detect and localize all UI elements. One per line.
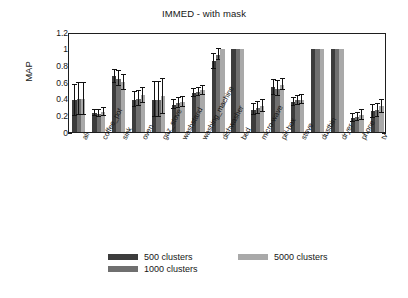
bar[interactable] [300,34,304,132]
error-bar [118,71,119,86]
error-bar [142,88,143,103]
error-bar [381,100,382,113]
bar-rect [121,82,125,132]
error-bar-cap-top [379,99,384,100]
bar[interactable] [379,34,383,132]
error-bar [123,75,124,90]
y-axis-tick-label: 0.4 [56,94,68,104]
bar[interactable] [161,34,165,132]
bar-group [311,34,324,132]
error-bar-cap-top [140,87,145,88]
bar-group [152,34,165,132]
bar[interactable] [180,34,184,132]
bar[interactable] [121,34,125,132]
error-bar-cap-top [359,109,364,110]
error-bar-cap-top [200,85,205,86]
bar[interactable] [220,34,224,132]
error-bar-cap-top [260,99,265,100]
error-bar-cap-bottom [200,94,205,95]
error-bar-cap-bottom [81,114,86,115]
bar-rect [320,49,324,132]
bar[interactable] [260,34,264,132]
error-bar-cap-bottom [121,89,126,90]
error-bar-cap-top [299,94,304,95]
legend-entry[interactable]: 1000 clusters [108,264,198,274]
chart-title: IMMED - with mask [0,8,408,19]
error-bar [162,79,163,114]
bar-group [251,34,264,132]
legend-swatch [108,266,138,272]
y-axis-tick-label: 0.2 [56,111,68,121]
legend-entry[interactable]: 5000 clusters [238,252,328,262]
error-bar-cap-bottom [101,115,106,116]
error-bar [138,91,139,106]
error-bar-cap-bottom [140,102,145,103]
error-bar [154,82,155,117]
bar[interactable] [359,34,363,132]
bar-group [371,34,384,132]
bar[interactable] [141,34,145,132]
x-axis-tick-label: tv [379,132,390,141]
bar[interactable] [81,34,85,132]
error-bar-cap-bottom [160,113,165,114]
bar[interactable] [339,34,343,132]
error-bar [277,81,278,96]
y-axis-tick-label: 0.6 [56,78,68,88]
y-axis-label: MAP [23,42,34,102]
bar-group [72,34,85,132]
error-bar-cap-top [160,78,165,79]
legend-swatch [108,254,138,260]
error-bar [213,54,214,69]
legend-entry[interactable]: 500 clusters [108,252,193,262]
error-bar-cap-bottom [359,119,364,120]
error-bar [83,83,84,115]
error-bar-cap-bottom [280,89,285,90]
y-axis-tick-label: 0.8 [56,61,68,71]
error-bar [78,83,79,115]
chart-figure: IMMED - with mask MAP 00.20.40.60.811.2 … [0,0,408,298]
bar-group [351,34,364,132]
legend-swatch [238,254,268,260]
error-bar-cap-top [280,78,285,79]
bar[interactable] [320,34,324,132]
error-bar [114,70,115,83]
bar[interactable] [240,34,244,132]
error-bar-cap-top [81,82,86,83]
bar-rect [240,49,244,132]
error-bar-cap-top [121,74,126,75]
bar-group [132,34,145,132]
legend-label: 1000 clusters [144,264,198,274]
error-bar-cap-bottom [180,106,185,107]
error-bar [134,92,135,107]
error-bar-cap-top [180,96,185,97]
y-axis-tick-label: 1.2 [56,28,68,38]
error-bar [377,104,378,117]
error-bar-cap-top [101,107,106,108]
legend-label: 5000 clusters [274,252,328,262]
error-bar [372,105,373,118]
bar[interactable] [280,34,284,132]
error-bar [158,82,159,117]
error-bar [74,85,75,117]
error-bar [273,80,274,95]
bar[interactable] [200,34,204,132]
bar[interactable] [101,34,105,132]
error-bar-cap-bottom [299,103,304,104]
error-bar-cap-bottom [379,112,384,113]
bar-rect [339,49,343,132]
bar-group [92,34,105,132]
error-bar-cap-bottom [260,111,265,112]
legend-label: 500 clusters [144,252,193,262]
chart-legend: 500 clusters1000 clusters5000 clusters [108,252,338,280]
